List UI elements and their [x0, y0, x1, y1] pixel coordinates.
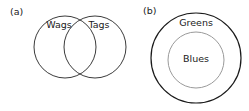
set-label-greens: Greens	[179, 17, 213, 28]
set-label-wags: Wags	[46, 19, 72, 30]
panel-b: (b) Greens Blues	[143, 5, 241, 103]
set-label-blues: Blues	[183, 53, 209, 64]
figure-canvas: (a) Wags Tags (b) Greens Blues	[0, 0, 249, 111]
panel-b-caption: (b)	[143, 5, 156, 16]
set-label-tags: Tags	[87, 19, 109, 30]
panel-a-caption: (a)	[10, 6, 23, 17]
panel-a: (a) Wags Tags	[10, 6, 126, 78]
set-diagram-figure: (a) Wags Tags (b) Greens Blues	[0, 0, 249, 111]
